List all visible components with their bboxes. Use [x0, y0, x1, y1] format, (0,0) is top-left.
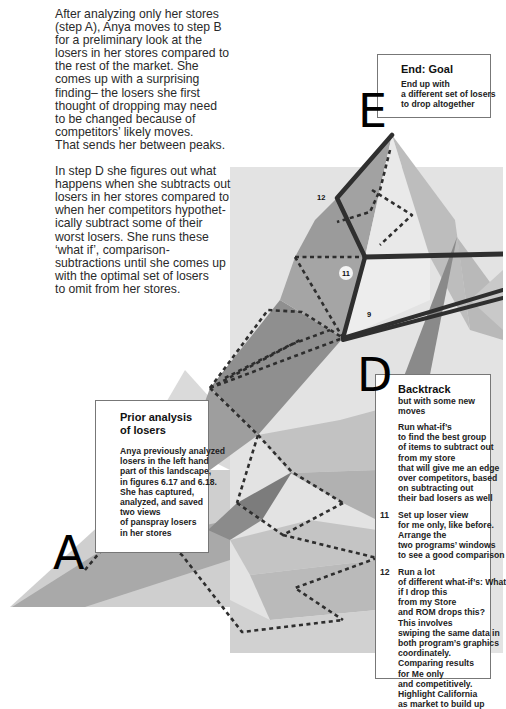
- text-line: That sends her between peaks.: [55, 139, 230, 152]
- text-line: Run a lot: [398, 567, 506, 577]
- step-letter-e: E: [358, 88, 387, 134]
- end-goal-text: End up with a different set of losers to…: [401, 79, 484, 110]
- step-text: Set up loser view for me only, like befo…: [398, 510, 505, 561]
- step-number: 11: [380, 510, 398, 561]
- text-line: two views: [120, 507, 204, 517]
- text-line: over competitors, based: [398, 473, 488, 483]
- text-line: both program’s graphics: [398, 638, 506, 648]
- text-line: to be changed because of: [55, 113, 230, 126]
- text-line: part of this landscape,: [120, 466, 204, 476]
- text-line: Highlight California: [398, 689, 506, 699]
- text-line: subtractions until she comes up: [55, 257, 230, 270]
- backtrack-box: Backtrack but with some new moves Run wh…: [375, 374, 491, 679]
- backtrack-subtitle: but with some new moves: [398, 396, 488, 416]
- step-letter-d: D: [357, 352, 392, 398]
- text-line: Arrange the: [398, 530, 505, 540]
- text-line: losers in the left hand: [120, 456, 204, 466]
- text-line: for me only, like before.: [398, 520, 505, 530]
- backtrack-step-11: 11 Set up loser view for me only, like b…: [380, 510, 488, 561]
- text-line: of items to subtract out: [398, 442, 488, 452]
- text-line: Anya previously analyzed: [120, 446, 204, 456]
- text-line: to find the best group: [398, 432, 488, 442]
- path-label-11: 11: [339, 266, 353, 280]
- text-line: as market to build up: [398, 699, 506, 709]
- text-line: that will give me an edge: [398, 463, 488, 473]
- text-line: worst losers. She runs these: [55, 231, 230, 244]
- end-goal-box: End: Goal End up with a different set of…: [377, 54, 491, 118]
- intro-paragraph-1: After analyzing only her stores (step A)…: [55, 8, 230, 152]
- text-line: This involves: [398, 618, 506, 628]
- prior-analysis-text: Anya previously analyzed losers in the l…: [120, 446, 204, 538]
- text-line: swiping the same data in: [398, 628, 506, 638]
- prior-analysis-box: Prior analysis of losers Anya previously…: [95, 400, 209, 553]
- text-line: Set up loser view: [398, 510, 505, 520]
- text-line: ‘what if’, comparison-: [55, 244, 230, 257]
- text-line: to drop altogether: [401, 99, 484, 109]
- text-line: comes up with a surprising: [55, 73, 230, 86]
- text-line: for Me only: [398, 669, 506, 679]
- intro-text: After analyzing only her stores (step A)…: [55, 8, 230, 309]
- text-line: two programs’ windows: [398, 540, 505, 550]
- text-line: from my Store: [398, 597, 506, 607]
- text-line: of different what-if’s: What: [398, 577, 506, 587]
- text-line: Run what-if’s: [398, 422, 488, 432]
- text-line: in her stores: [120, 528, 204, 538]
- text-line: to omit from her stores.: [55, 283, 230, 296]
- step-number: 12: [380, 567, 398, 709]
- step-text: Run a lot of different what-if’s: What i…: [398, 567, 506, 709]
- text-line: in figures 6.17 and 6.18.: [120, 477, 204, 487]
- text-line: She has captured,: [120, 487, 204, 497]
- text-line: analyzed, and saved: [120, 497, 204, 507]
- text-line: and competitively.: [398, 679, 506, 689]
- text-line: of losers: [120, 424, 204, 437]
- text-line: Comparing results: [398, 658, 506, 668]
- backtrack-intro-text: Run what-if’s to find the best group of …: [398, 422, 488, 504]
- text-line: of panspray losers: [120, 517, 204, 527]
- text-line: a different set of losers: [401, 89, 484, 99]
- text-line: ically subtract some of their: [55, 217, 230, 230]
- path-label-12: 12: [317, 193, 325, 202]
- text-line: and ROM drops this?: [398, 607, 506, 617]
- backtrack-title: Backtrack: [398, 383, 488, 396]
- backtrack-step-12: 12 Run a lot of different what-if’s: Wha…: [380, 567, 488, 709]
- text-line: coordinately.: [398, 648, 506, 658]
- text-line: their bad losers as well: [398, 493, 488, 503]
- text-line: thought of dropping may need: [55, 100, 230, 113]
- text-line: to see a good comparison: [398, 550, 505, 560]
- text-line: if I drop this: [398, 587, 506, 597]
- step-letter-a: A: [53, 530, 84, 576]
- text-line: End up with: [401, 79, 484, 89]
- text-line: from my store: [398, 453, 488, 463]
- intro-paragraph-2: In step D she figures out what happens w…: [55, 165, 230, 296]
- text-line: finding– the losers she first: [55, 87, 230, 100]
- prior-analysis-title: Prior analysis of losers: [120, 411, 204, 436]
- path-label-9: 9: [367, 310, 371, 319]
- text-line: competitors’ likely moves.: [55, 126, 230, 139]
- text-line: with the optimal set of losers: [55, 270, 230, 283]
- end-goal-title: End: Goal: [401, 63, 484, 76]
- text-line: on subtracting out: [398, 483, 488, 493]
- text-line: Prior analysis: [120, 411, 204, 424]
